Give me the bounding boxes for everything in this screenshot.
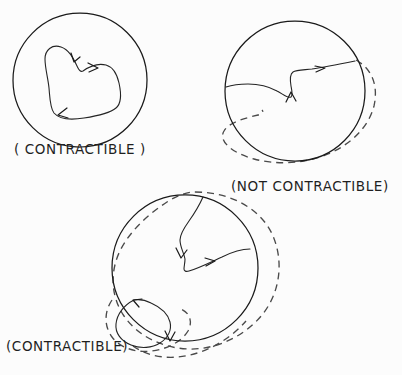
diagram-page: ( CONTRACTIBLE ) (NOT CONTRACTIBLE) (CON… — [0, 0, 402, 375]
panel-top-left-boundary-circle — [13, 13, 147, 147]
panel-top-left-loop-curve — [45, 46, 121, 119]
panel-bottom-boundary-circle — [112, 195, 258, 341]
caption-top-right: (NOT CONTRACTIBLE) — [231, 178, 389, 194]
panel-top-right-group — [223, 21, 376, 163]
panel-top-right-dashed-deformation — [223, 60, 376, 163]
panel-bottom-dashed-outer — [113, 192, 279, 349]
panel-top-right-boundary-circle — [225, 21, 365, 161]
panel-top-left-arrowhead-1 — [71, 53, 80, 62]
panel-top-left-group — [13, 13, 147, 147]
caption-bottom: (CONTRACTIBLE) — [6, 338, 128, 354]
panel-bottom-group — [106, 192, 279, 357]
panel-bottom-loop-curve-main — [180, 197, 250, 271]
caption-top-left: ( CONTRACTIBLE ) — [14, 141, 146, 157]
